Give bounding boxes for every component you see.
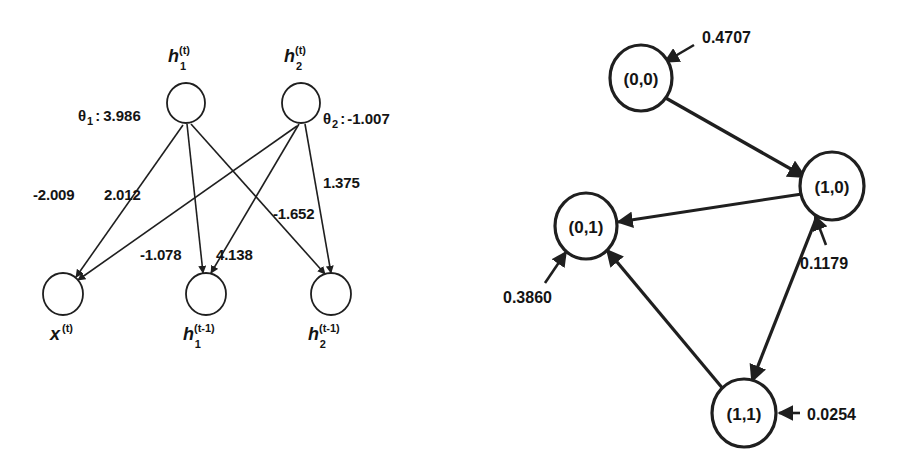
node-h2-tm1[interactable]	[311, 273, 351, 315]
figure-root: h(t)1 h(t)2 x(t) h(t-1)1 h(t-1)2	[0, 0, 916, 467]
bias-label-theta2: θ2:-1.007	[323, 110, 390, 130]
state-transition-group	[607, 97, 818, 390]
weight-label-h1prev-to-h1: -1.078	[140, 246, 181, 263]
state-label-10: (1,0)	[815, 178, 850, 197]
node-label-x-t: x(t)	[49, 322, 73, 344]
weight-label-h2prev-to-h2: 1.375	[323, 174, 360, 191]
probability-label-01: 0.3860	[503, 289, 552, 306]
rnn-weight-label-group: -2.009 2.012 -1.078 4.138 1.375 -1.652	[33, 174, 360, 263]
weight-label-x-to-h2: 2.012	[104, 186, 141, 203]
state-node-group	[555, 45, 864, 447]
rnn-bias-label-group: θ1:3.986 θ2:-1.007	[78, 107, 390, 130]
edge-h2prev-to-h1	[191, 124, 325, 274]
node-x-t[interactable]	[43, 273, 83, 315]
edge-h2prev-to-h2	[305, 124, 331, 273]
node-label-h2-tm1: h(t-1)2	[308, 322, 340, 350]
state-label-01: (0,1)	[569, 218, 604, 237]
pointer-arrow-s01	[545, 252, 566, 283]
state-label-11: (1,1)	[727, 405, 762, 424]
node-label-h2-t: h(t)2	[284, 44, 306, 72]
weight-label-h2prev-to-h1: -1.652	[273, 205, 314, 222]
node-h1-t[interactable]	[167, 83, 205, 123]
pointer-arrow-s00	[665, 45, 694, 62]
transition-11-to-01	[607, 250, 724, 390]
node-h1-tm1[interactable]	[186, 273, 226, 315]
transition-00-to-10	[664, 97, 805, 177]
state-transition-diagram-panel: (0,0) (1,0) (0,1) (1,1) 0.4707 0.1179 0.…	[460, 0, 916, 467]
probability-label-00: 0.4707	[702, 29, 751, 46]
state-transition-diagram: (0,0) (1,0) (0,1) (1,1) 0.4707 0.1179 0.…	[460, 0, 916, 467]
weight-label-x-to-h1: -2.009	[33, 186, 74, 203]
node-label-h1-tm1: h(t-1)1	[183, 322, 215, 350]
edge-x-to-h2	[78, 126, 297, 280]
rnn-weight-diagram: h(t)1 h(t)2 x(t) h(t-1)1 h(t-1)2	[0, 0, 460, 467]
weight-label-h1prev-to-h2: 4.138	[216, 246, 253, 263]
edge-h1prev-to-h1	[187, 124, 203, 273]
probability-label-11: 0.0254	[807, 406, 856, 423]
probability-label-10: 0.1179	[800, 255, 848, 272]
node-h2-t[interactable]	[282, 83, 320, 123]
transition-10-to-01	[618, 194, 802, 222]
rnn-weight-diagram-panel: h(t)1 h(t)2 x(t) h(t-1)1 h(t-1)2	[0, 0, 460, 467]
state-label-00: (0,0)	[624, 70, 659, 89]
bias-label-theta1: θ1:3.986	[78, 107, 141, 127]
transition-10-to-11	[752, 214, 818, 381]
node-label-h1-t: h(t)1	[168, 44, 190, 72]
